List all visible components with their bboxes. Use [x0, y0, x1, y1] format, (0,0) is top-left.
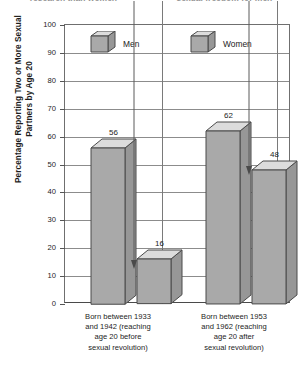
callout-arrow-right: [65, 1, 291, 304]
plot-area: Men Women 56166248: [64, 24, 290, 303]
y-axis-tick-label: 80: [30, 76, 56, 85]
y-axis-tick-label: 30: [30, 215, 56, 224]
x-category-label-right: Born between 1953 and 1962 (reaching age…: [178, 312, 290, 353]
x-cat-right-line4: sexual revolution): [178, 343, 290, 353]
y-axis-tick-label: 50: [30, 160, 56, 169]
x-cat-right-line3: age 20 after: [178, 332, 290, 342]
x-cat-left-line3: age 20 before: [62, 332, 174, 342]
x-cat-right-line2: and 1962 (reaching: [178, 322, 290, 332]
x-cat-left-line1: Born between 1933: [62, 312, 174, 322]
y-axis-tick-label: 10: [30, 271, 56, 280]
y-axis-tick-label: 60: [30, 132, 56, 141]
y-axis-tick-label: 90: [30, 48, 56, 57]
y-axis-title: Percentage Reporting Two or More Sexual …: [13, 0, 39, 199]
x-cat-right-line1: Born between 1953: [178, 312, 290, 322]
y-axis-tick-label: 0: [30, 299, 56, 308]
y-axis-tick-label: 20: [30, 243, 56, 252]
y-axis-tick-label: 40: [30, 187, 56, 196]
x-cat-left-line2: and 1942 (reaching: [62, 322, 174, 332]
y-axis-tick-label: 70: [30, 104, 56, 113]
y-axis-tick-label: 100: [30, 20, 56, 29]
y-axis-tick: [60, 304, 65, 305]
x-category-label-left: Born between 1933 and 1942 (reaching age…: [62, 312, 174, 353]
x-cat-left-line4: sexual revolution): [62, 343, 174, 353]
